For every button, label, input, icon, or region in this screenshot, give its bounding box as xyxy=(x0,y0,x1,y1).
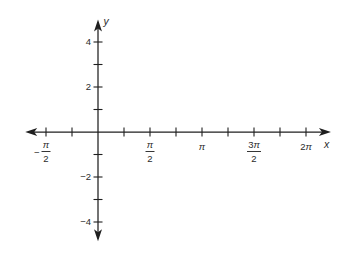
fraction-denominator: 2 xyxy=(251,153,256,164)
fraction-denominator: 2 xyxy=(43,153,48,164)
fraction-numerator: π xyxy=(43,139,50,150)
x-tick-label: π2− xyxy=(34,139,51,164)
x-tick-label: 2π xyxy=(300,141,312,152)
y-tick-label: 2 xyxy=(86,81,91,92)
y-axis-label: y xyxy=(103,15,110,27)
fraction-numerator: 3π xyxy=(248,139,260,150)
fraction-sign: − xyxy=(34,147,40,158)
coordinate-plane-figure: π2−π2π3π22π42−2−4xy xyxy=(0,0,349,261)
x-tick-label: 3π2 xyxy=(247,139,261,164)
fraction-numerator: π xyxy=(147,139,154,150)
axes-plot: π2−π2π3π22π42−2−4xy xyxy=(0,0,349,261)
fraction-denominator: 2 xyxy=(147,153,152,164)
x-tick-label: π xyxy=(199,141,206,152)
x-axis-label: x xyxy=(323,138,330,150)
y-tick-label: 4 xyxy=(86,36,91,47)
y-tick-label: −4 xyxy=(80,216,91,227)
x-tick-label: π2 xyxy=(146,139,155,164)
y-tick-label: −2 xyxy=(80,171,91,182)
